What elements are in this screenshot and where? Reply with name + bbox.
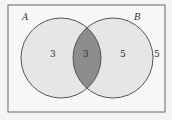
intersection-count: 3 xyxy=(83,49,89,59)
set-a-label: A xyxy=(21,12,29,22)
venn-diagram: A B 3 3 5 5 xyxy=(0,0,172,120)
set-b-only-count: 5 xyxy=(120,49,126,59)
outside-count: 5 xyxy=(154,49,160,59)
set-a-only-count: 3 xyxy=(50,49,56,59)
set-b-label: B xyxy=(133,12,141,22)
